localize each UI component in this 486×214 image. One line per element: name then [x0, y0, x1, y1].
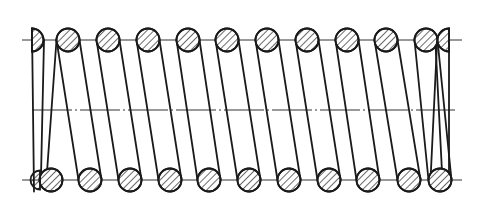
bottom-wire-section: [40, 169, 63, 192]
top-wire-section: [57, 29, 80, 52]
bottom-wire-section: [318, 169, 341, 192]
last-coil-right-line: [436, 44, 443, 172]
bottom-wire-section: [278, 169, 301, 192]
bottom-wire-section: [238, 169, 261, 192]
bottom-wire-section: [357, 169, 380, 192]
top-wire-section: [216, 29, 239, 52]
top-wire-section: [296, 29, 319, 52]
spring-svg: [0, 0, 486, 214]
first-coil-left-line: [47, 40, 57, 172]
top-wire-section: [97, 29, 120, 52]
top-wire-section: [336, 29, 359, 52]
top-wire-section: [375, 29, 398, 52]
bottom-wire-section: [429, 169, 452, 192]
bottom-wire-section: [198, 169, 221, 192]
bottom-wire-section: [79, 169, 102, 192]
bottom-wire-section: [159, 169, 182, 192]
left-end-inner-line: [41, 40, 44, 176]
left-top-half-section: [32, 29, 44, 52]
bottom-wire-section: [398, 169, 421, 192]
top-wire-section: [177, 29, 200, 52]
bottom-wire-section: [119, 169, 142, 192]
left-end-outer-line: [32, 29, 34, 192]
top-wire-section: [137, 29, 160, 52]
right-top-half-section: [438, 29, 449, 52]
left-bottom-half-section: [31, 171, 40, 190]
top-wire-section: [256, 29, 279, 52]
top-wire-section: [415, 29, 438, 52]
